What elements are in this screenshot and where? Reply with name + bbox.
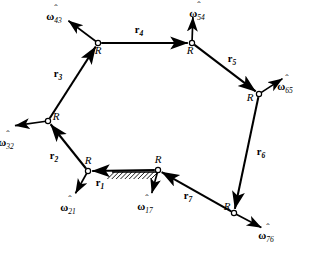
link-vector-r1 [92,170,155,171]
axis-label-w65: ω65 [277,80,293,95]
axis-label-w76: ω76 [258,229,274,244]
link-vector-r7 [162,172,232,211]
joint-label-J1: R [84,154,92,166]
axis-label-w43: ω43 [46,10,62,25]
hat-accent-w17: ˆ [145,193,149,204]
joint-label-J6: R [223,200,231,212]
axis-label-w17: ω17 [137,200,153,215]
link-vector-r5 [195,45,256,92]
link-vector-r3 [50,47,96,119]
revolute-joint-J5 [256,91,261,96]
joint-label-J2: R [52,110,60,122]
loop-diagram-svg: r1r2r3r4r5r6r7ˆω43ˆω54ˆω65ˆω76ˆω17ˆω21ˆω… [0,0,316,255]
hat-accent-w76: ˆ [266,222,270,233]
ground-support-group [107,172,160,179]
link-label-r7: r7 [184,190,193,204]
revolute-joint-J2 [45,118,50,123]
revolute-joint-J1 [85,168,90,173]
hat-accent-w65: ˆ [285,73,289,84]
link-label-r5: r5 [228,53,237,67]
joint-label-J3: R [94,44,102,56]
joint-label-J7: R [154,153,162,165]
joint-axis-vectors-group [15,17,283,228]
axis-vector-w32 [15,121,46,125]
axis-vector-w54 [192,17,193,41]
hat-accent-w32: ˆ [6,129,10,140]
revolute-joint-J6 [231,210,236,215]
hat-accent-w54: ˆ [197,0,201,11]
hat-accent-w43: ˆ [54,3,58,14]
axis-label-w21: ω21 [60,201,76,216]
joint-label-J5: R [246,91,254,103]
hat-accent-w21: ˆ [68,194,72,205]
axis-vector-w76 [236,214,262,228]
kinematic-loop-diagram: r1r2r3r4r5r6r7ˆω43ˆω54ˆω65ˆω76ˆω17ˆω21ˆω… [0,0,316,255]
link-label-r6: r6 [257,146,266,160]
link-vector-r6 [235,97,258,209]
axis-vector-w21 [75,173,87,194]
link-label-r3: r3 [54,68,63,82]
axis-vector-w43 [68,21,96,42]
axis-label-w54: ω54 [189,7,205,22]
link-label-r2: r2 [50,150,59,164]
joint-label-J4: R [186,44,194,56]
revolute-joint-J7 [155,167,160,172]
link-label-r4: r4 [135,24,144,38]
link-label-r1: r1 [96,177,104,191]
